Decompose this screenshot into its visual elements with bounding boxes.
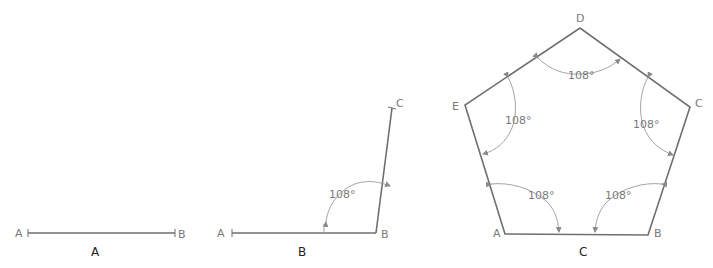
panel-b: 108° A B C B — [217, 97, 404, 259]
angle-label-e: 108° — [505, 114, 532, 127]
pentagon — [465, 28, 690, 235]
panel-a: A B A — [15, 227, 186, 259]
point-label-a: A — [493, 227, 501, 240]
point-label-a: A — [15, 227, 23, 240]
angle-label-a: 108° — [528, 189, 555, 202]
angle-label-b: 108° — [329, 188, 356, 201]
point-label-c: C — [396, 97, 404, 110]
point-label-a: A — [217, 227, 225, 240]
point-label-b: B — [654, 227, 662, 240]
point-label-b: B — [178, 228, 186, 241]
panel-caption-c: C — [579, 245, 587, 259]
point-label-d: D — [576, 12, 584, 25]
pentagon-construction-figure: A B A 108° A B C B 108° 108° 108° 108° 1… — [0, 0, 713, 268]
point-label-c: C — [695, 97, 703, 110]
segment-bc — [376, 108, 392, 233]
angle-label-c: 108° — [633, 118, 660, 131]
panel-caption-a: A — [91, 245, 100, 259]
panel-c: 108° 108° 108° 108° 108° D E C A B C — [452, 12, 703, 259]
angle-label-d: 108° — [568, 69, 595, 82]
angle-label-b: 108° — [605, 189, 632, 202]
angle-arc-c — [641, 77, 673, 155]
point-label-e: E — [452, 100, 459, 113]
point-label-b: B — [381, 228, 389, 241]
panel-caption-b: B — [298, 245, 306, 259]
